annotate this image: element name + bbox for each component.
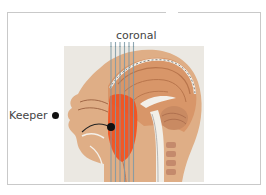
coronal-label: coronal <box>116 29 157 42</box>
keeper-dot-icon <box>52 112 59 119</box>
keeper-label: Keeper <box>9 109 47 122</box>
frame-gap <box>166 10 178 14</box>
head-anatomy-illustration <box>64 46 204 182</box>
head-sagittal-section-image <box>64 46 204 182</box>
keeper-label-group: Keeper <box>9 109 59 122</box>
coronal-lines-top <box>108 42 138 47</box>
